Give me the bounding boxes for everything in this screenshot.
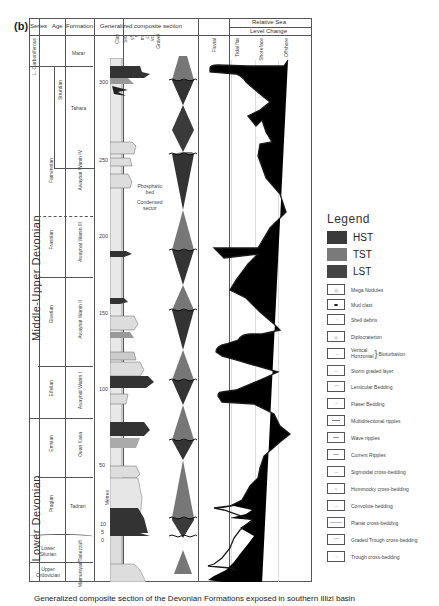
depth-tick: 10	[100, 521, 106, 527]
ripples-icon	[327, 415, 345, 426]
header-series: Series	[30, 23, 47, 29]
legend-item: : ∼ Vertical Horizontal } Bioturbation	[327, 348, 405, 359]
grain-silt: Silt	[122, 36, 128, 43]
legend-item: Planar cross-bedding	[327, 517, 398, 528]
legend-item: ~ Storm graded layer	[327, 365, 394, 376]
legend-item: ⌒ Lenticular Bedding	[327, 381, 392, 392]
age-givetian: Givetian	[48, 305, 54, 323]
legend-item: ◎ Mega Nodules	[327, 284, 383, 295]
header-age: Age	[52, 23, 63, 29]
burrow-icon: ∪	[327, 331, 345, 342]
series-upper-ordovician: Upper Ordovician	[31, 566, 65, 578]
depth-tick: 200	[99, 233, 108, 239]
legend-item: ∪ Diplocraterion	[327, 331, 382, 342]
boundary	[38, 477, 93, 478]
panel-label: (b)	[14, 20, 28, 32]
divider	[94, 19, 95, 581]
depth-tick: 5	[101, 529, 104, 535]
legend-item-hst: HST	[327, 231, 373, 244]
series-middle-upper-devonian: Middle-Upper Devonian	[30, 215, 42, 341]
formation-tahara: Tahara	[71, 105, 86, 111]
series-l-carboniferous: L. Carboniferous	[31, 38, 37, 75]
nodule-icon: ◎	[327, 284, 345, 295]
age-emsian: Emsian	[48, 435, 54, 452]
trough-icon: ⌣	[327, 551, 345, 562]
legend-item: Multidirectional ripples	[327, 415, 400, 426]
header-divider	[30, 35, 311, 36]
env-tidal-flat: Tidal flat	[234, 38, 240, 57]
env-fluvial: Fluvial	[211, 38, 217, 52]
header-section: Generalized composite section	[100, 23, 182, 29]
age-frasnian: Frasnian	[48, 230, 54, 249]
boundary-dashed	[38, 216, 93, 217]
bioturbation-icon: : ∼	[327, 348, 345, 359]
depth-tick: 50	[99, 462, 105, 468]
legend-item: ≈ Hummocky cross-bedding	[327, 483, 409, 494]
header-sea-level-1: Relative Sea	[252, 19, 286, 25]
series-lower-silurian: Lower Silurian	[34, 545, 62, 557]
lenticular-icon: ⌒	[327, 381, 345, 392]
grain-gravel: Gravel	[155, 34, 161, 49]
unconformity	[29, 534, 93, 539]
header-formation: Formation	[66, 23, 93, 29]
depth-tick: 150	[99, 310, 108, 316]
storm-layer-icon: ~	[327, 365, 345, 376]
legend-item-tst: TST	[327, 248, 372, 261]
phosphatic-annotation: Phosphatic bed Condensed sector	[137, 183, 163, 211]
boundary	[29, 562, 93, 563]
planar-icon	[327, 517, 345, 528]
formation-awaynat-wanin-i: Awaynat Wanin I	[77, 372, 83, 409]
legend-item: ⌒ Graded Trough cross-bedding	[327, 534, 417, 545]
hst-swatch	[327, 231, 347, 244]
shell-icon: ⌣	[327, 314, 345, 325]
hummocky-icon: ≈	[327, 483, 345, 494]
graded-trough-icon: ⌒	[327, 534, 345, 545]
mud-clast-icon	[327, 299, 345, 310]
divider	[198, 19, 199, 581]
env-offshore: Offshore	[283, 38, 289, 57]
depth-tick: 250	[99, 157, 108, 163]
boundary	[29, 418, 93, 419]
tst-swatch	[327, 248, 347, 261]
formation-ouan-kasa: Ouan Kasa	[77, 432, 83, 457]
formation-awaynat-wanin-ii: Awaynat Wanin II	[77, 300, 83, 339]
current-ripple-icon	[327, 449, 345, 460]
age-struntian: Struntian	[57, 80, 63, 100]
legend-item: Wave ripples	[327, 432, 380, 443]
depth-tick: 0	[101, 537, 104, 543]
legend-title: Legend	[327, 212, 370, 226]
legend-item: Current Ripples	[327, 449, 386, 460]
formation-awaynat-wanin-iii: Awaynat Wanin III	[77, 222, 83, 262]
depth-tick: 300	[99, 79, 108, 85]
legend-item: ⌣ Trough cross-bedding	[327, 551, 399, 562]
age-pragian: Pragian	[48, 495, 54, 512]
lst-swatch	[327, 265, 347, 278]
systems-tract-column	[168, 50, 198, 580]
convolute-icon: ∽	[327, 500, 345, 511]
age-eifelian: Eifelian	[48, 380, 54, 396]
figure-caption: Generalized composite section of the Dev…	[34, 594, 355, 603]
depth-tick: 100	[99, 386, 108, 392]
formation-marar: Marar	[72, 50, 85, 56]
legend-item: Mud clast	[327, 299, 372, 310]
flaser-icon: ⌢	[327, 398, 345, 409]
legend-item: ∼ Sigmoidal cross-bedding	[327, 466, 406, 477]
legend-item: ⌢ Flaser Bedding	[327, 398, 385, 409]
formation-tadrart: Tadrart	[70, 503, 86, 509]
wave-ripple-icon	[327, 432, 345, 443]
header-sea-level-2: Level Change	[250, 28, 287, 34]
grain-clay: Clay	[114, 34, 120, 44]
formation-awaynat-wanin-iv: Awaynat Wanin IV	[77, 150, 83, 191]
lithology-column	[110, 58, 170, 582]
boundary	[38, 366, 93, 367]
sigmoidal-icon: ∼	[327, 466, 345, 477]
legend-item-lst: LST	[327, 265, 371, 278]
age-famennian: Famennian	[48, 158, 54, 183]
sea-level-curve	[200, 58, 312, 582]
formation-mamuniyat-tanezzuft: Mamuniyat/Tanezzuft	[77, 540, 83, 587]
boundary	[38, 277, 93, 278]
legend-item: ⌣ Shell debris	[327, 314, 377, 325]
legend-item: ∽ Convolute bedding	[327, 500, 393, 511]
